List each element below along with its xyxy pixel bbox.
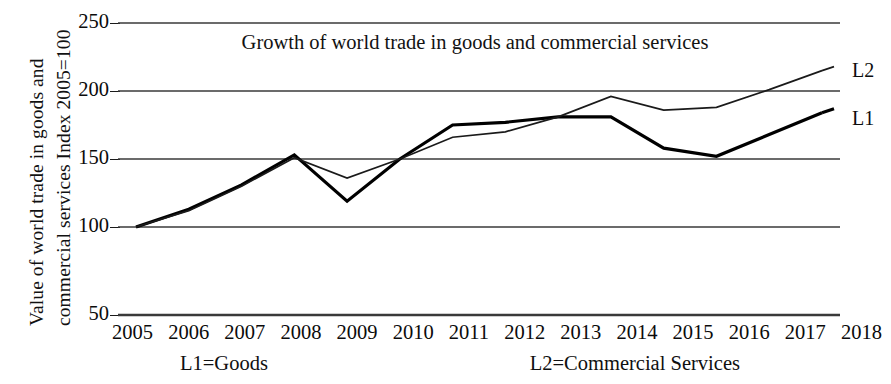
x-tick-2012: 2012	[504, 320, 545, 344]
series-label-l2: L2	[852, 59, 874, 82]
x-tick-2018: 2018	[841, 320, 882, 344]
x-tick-2010: 2010	[393, 320, 434, 344]
legend-item-l1: L1=Goods	[180, 352, 268, 375]
x-tick-2006: 2006	[168, 320, 209, 344]
series-label-l1: L1	[852, 107, 874, 130]
y-tick-200: 200	[63, 79, 109, 99]
legend-item-l2: L2=Commercial Services	[530, 352, 740, 375]
chart-figure: Value of world trade in goods and commer…	[0, 0, 891, 384]
x-tick-2005: 2005	[112, 320, 153, 344]
series-line-l1	[136, 113, 822, 227]
series-leader-l1	[822, 109, 834, 113]
gridlines	[118, 23, 840, 315]
y-tick-100: 100	[63, 215, 109, 235]
y-axis-title: Value of world trade in goods and commer…	[0, 0, 62, 330]
x-tick-2013: 2013	[560, 320, 601, 344]
chart-title: Growth of world trade in goods and comme…	[155, 31, 795, 54]
x-tick-2015: 2015	[673, 320, 714, 344]
series-line-l2	[136, 71, 822, 227]
chart-legend: L1=Goods L2=Commercial Services	[180, 352, 740, 375]
y-tick-150: 150	[63, 147, 109, 167]
series-leader-l2	[822, 67, 834, 71]
y-tick-50: 50	[63, 303, 109, 323]
x-tick-2016: 2016	[729, 320, 770, 344]
y-axis-tick-labels: 250 200 150 100 50	[63, 0, 109, 340]
x-tick-2008: 2008	[280, 320, 321, 344]
x-tick-2009: 2009	[337, 320, 378, 344]
x-tick-2017: 2017	[785, 320, 826, 344]
x-tick-2014: 2014	[616, 320, 657, 344]
y-tick-250: 250	[63, 11, 109, 31]
y-axis-title-line-1: Value of world trade in goods and	[26, 58, 48, 326]
x-tick-2011: 2011	[449, 320, 489, 344]
x-axis-tick-labels: 2005200620072008200920102011201220132014…	[112, 320, 882, 348]
x-tick-2007: 2007	[224, 320, 265, 344]
